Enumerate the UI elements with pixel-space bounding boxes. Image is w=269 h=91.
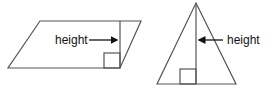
parallelogram-figure: height	[8, 21, 141, 68]
triangle-height-label: height	[227, 33, 260, 47]
parallelogram-right-angle-marker	[104, 53, 120, 68]
parallelogram-height-label: height	[55, 33, 88, 47]
geometry-height-diagram: height height	[0, 0, 269, 91]
triangle-right-angle-marker	[180, 69, 196, 84]
triangle-figure: height	[157, 3, 260, 84]
